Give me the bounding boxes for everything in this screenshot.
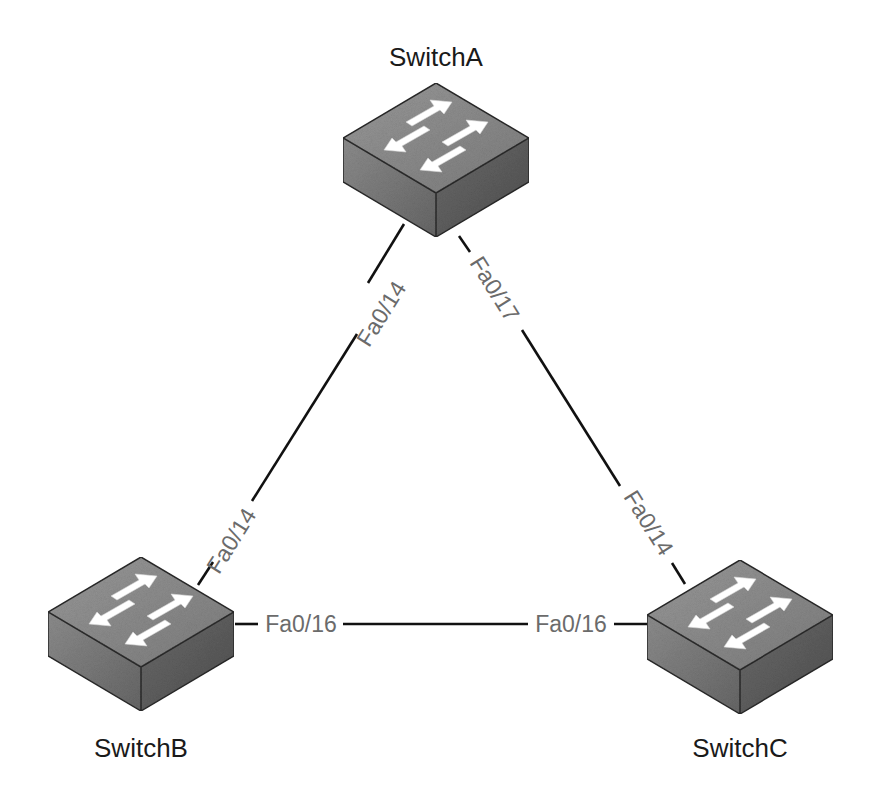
switch-icon xyxy=(343,83,529,237)
port-label-switchc-fa0-16: Fa0/16 xyxy=(535,611,607,637)
device-label-switchb: SwitchB xyxy=(94,733,188,763)
port-label-switchb-fa0-16: Fa0/16 xyxy=(265,611,337,637)
device-switchb[interactable]: SwitchB xyxy=(48,557,234,763)
device-switchc[interactable]: SwitchC xyxy=(647,560,833,763)
device-switcha[interactable]: SwitchA xyxy=(343,42,529,237)
switch-icon xyxy=(48,557,234,711)
links xyxy=(198,224,685,624)
port-label-switcha-fa0-17: Fa0/17 xyxy=(465,252,525,327)
switch-icon xyxy=(647,560,833,714)
port-labels: Fa0/14 Fa0/14 Fa0/17 Fa0/14 Fa0/16 Fa0/1… xyxy=(201,252,679,637)
device-label-switcha: SwitchA xyxy=(389,42,484,72)
port-label-switcha-fa0-14: Fa0/14 xyxy=(351,276,411,351)
port-label-switchc-fa0-14: Fa0/14 xyxy=(619,486,679,561)
network-diagram: Fa0/14 Fa0/14 Fa0/17 Fa0/14 Fa0/16 Fa0/1… xyxy=(0,0,882,804)
device-label-switchc: SwitchC xyxy=(692,733,787,763)
port-label-switchb-fa0-14: Fa0/14 xyxy=(201,503,261,578)
